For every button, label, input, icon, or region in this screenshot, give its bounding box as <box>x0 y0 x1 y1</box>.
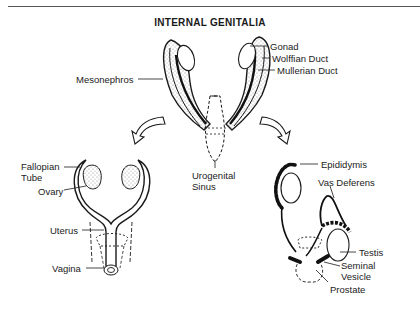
left-vas-deferens <box>282 206 296 252</box>
label-fallopian-tube-line1: Fallopian <box>21 161 60 172</box>
arrow-to-male-icon <box>260 117 290 144</box>
vaginal-opening <box>104 265 118 275</box>
label-vas-deferens: Vas Deferens <box>318 177 375 188</box>
seminal-vesicles <box>290 256 328 262</box>
label-seminal-vesicle-line1: Seminal <box>341 260 375 271</box>
label-fallopian-tube-line2: Tube <box>21 172 42 183</box>
label-ovary: Ovary <box>38 186 63 197</box>
right-ovary <box>122 165 140 189</box>
label-mesonephros: Mesonephros <box>76 74 134 85</box>
left-testis <box>281 173 301 203</box>
arrow-to-female-icon <box>132 117 165 144</box>
label-urogenital-sinus-line2: Sinus <box>192 181 216 192</box>
label-gonad: Gonad <box>270 41 299 52</box>
label-prostate: Prostate <box>330 284 365 295</box>
female-internal-genitalia <box>64 160 150 275</box>
label-epididymis: Epididymis <box>321 159 367 170</box>
urogenital-sinus <box>206 96 225 162</box>
label-urogenital-sinus-line1: Urogenital <box>192 170 235 181</box>
label-seminal-vesicle-line2: Vesicle <box>341 271 371 282</box>
left-ovary <box>83 165 101 189</box>
right-testis <box>327 229 349 261</box>
label-testis: Testis <box>359 247 383 258</box>
label-uterus: Uterus <box>50 225 78 236</box>
indifferent-stage <box>138 37 275 168</box>
label-mullerian-duct: Mullerian Duct <box>277 65 338 76</box>
label-vagina: Vagina <box>52 263 81 274</box>
label-wolffian-duct: Wolffian Duct <box>272 53 328 64</box>
